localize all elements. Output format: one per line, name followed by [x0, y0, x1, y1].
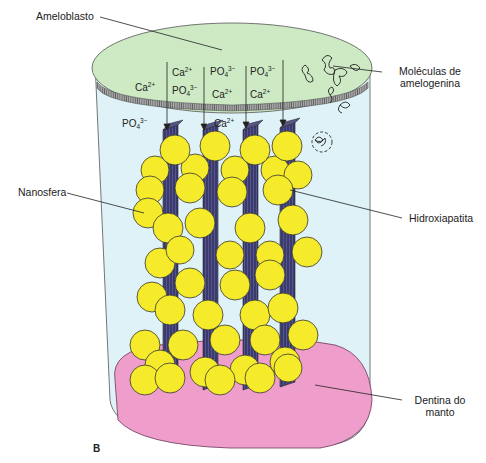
- ion-phosphate: PO43−: [122, 115, 148, 132]
- label-moleculas-amelogenina: Moléculas de amelogenina: [390, 65, 470, 89]
- ion-phosphate: PO43−: [210, 63, 236, 80]
- ion-calcium: Ca2+: [214, 115, 234, 129]
- label-hidroxiapatita: Hidroxiapatita: [409, 212, 473, 224]
- ion-calcium: Ca2+: [172, 64, 192, 78]
- ion-calcium: Ca2+: [250, 86, 270, 100]
- label-dentina-manto: Dentina do manto: [405, 394, 475, 418]
- panel-letter: B: [93, 443, 100, 454]
- label-moleculas-line1: Moléculas de: [390, 65, 470, 77]
- label-dentina-line2: manto: [405, 406, 475, 418]
- ion-phosphate: PO43−: [250, 63, 276, 80]
- ion-calcium: Ca2+: [212, 86, 232, 100]
- label-ameloblasto: Ameloblasto: [36, 10, 94, 22]
- label-dentina-line1: Dentina do: [405, 394, 475, 406]
- label-nanosfera: Nanosfera: [18, 186, 66, 198]
- ion-calcium: Ca2+: [135, 79, 155, 93]
- ion-phosphate: PO43−: [172, 82, 198, 99]
- label-moleculas-line2: amelogenina: [390, 77, 470, 89]
